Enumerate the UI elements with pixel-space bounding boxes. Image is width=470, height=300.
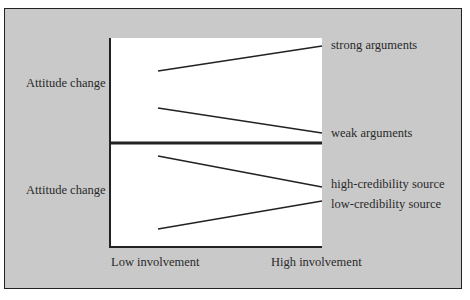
- high-credibility-line: [158, 156, 322, 187]
- x-label-low: Low involvement: [111, 255, 200, 270]
- weak-arguments-line: [158, 108, 322, 133]
- legend-low-credibility: low-credibility source: [331, 197, 441, 212]
- low-credibility-line: [158, 201, 322, 229]
- legend-weak-arguments: weak arguments: [331, 126, 412, 141]
- y-label-top: Attitude change: [26, 76, 106, 91]
- legend-strong-arguments: strong arguments: [331, 38, 417, 53]
- strong-arguments-line: [158, 46, 322, 71]
- y-label-bottom: Attitude change: [26, 183, 106, 198]
- legend-high-credibility: high-credibility source: [331, 177, 445, 192]
- x-label-high: High involvement: [271, 255, 362, 270]
